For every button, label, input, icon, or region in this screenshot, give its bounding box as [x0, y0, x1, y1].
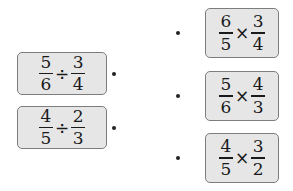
- divide-operator: ÷: [55, 64, 69, 84]
- numerator: 3: [253, 13, 264, 30]
- right-expression-2: 5 6 × 4 3: [205, 71, 279, 121]
- numerator: 3: [253, 138, 264, 155]
- multiply-operator: ×: [235, 23, 249, 43]
- numerator: 2: [73, 108, 84, 125]
- right-expression-3: 4 5 × 3 2: [205, 133, 279, 183]
- left-expression-2: 4 5 ÷ 2 3: [17, 106, 107, 149]
- numerator: 5: [220, 76, 231, 93]
- numerator: 6: [220, 13, 231, 30]
- right-expression-1: 6 5 × 3 4: [205, 8, 279, 58]
- denominator: 3: [73, 130, 84, 147]
- numerator: 4: [220, 138, 231, 155]
- match-dot-left-1[interactable]: [112, 72, 116, 76]
- fraction: 3 4: [71, 54, 85, 93]
- fraction: 4 5: [39, 108, 53, 147]
- denominator: 4: [73, 76, 84, 93]
- match-dot-right-1[interactable]: [176, 31, 180, 35]
- numerator: 4: [253, 76, 264, 93]
- numerator: 4: [40, 108, 51, 125]
- fraction: 3 2: [251, 138, 265, 177]
- match-dot-right-3[interactable]: [176, 156, 180, 160]
- denominator: 3: [253, 99, 264, 116]
- denominator: 5: [220, 36, 231, 53]
- denominator: 5: [220, 161, 231, 178]
- multiply-operator: ×: [235, 148, 249, 168]
- multiply-operator: ×: [235, 86, 249, 106]
- match-dot-left-2[interactable]: [112, 126, 116, 130]
- fraction: 5 6: [39, 54, 53, 93]
- fraction: 6 5: [219, 13, 233, 52]
- denominator: 4: [253, 36, 264, 53]
- denominator: 5: [40, 130, 51, 147]
- fraction: 3 4: [251, 13, 265, 52]
- fraction: 4 5: [219, 138, 233, 177]
- denominator: 6: [40, 76, 51, 93]
- denominator: 6: [220, 99, 231, 116]
- numerator: 3: [73, 54, 84, 71]
- fraction: 4 3: [251, 76, 265, 115]
- numerator: 5: [40, 54, 51, 71]
- fraction: 5 6: [219, 76, 233, 115]
- left-expression-1: 5 6 ÷ 3 4: [17, 52, 107, 95]
- divide-operator: ÷: [55, 118, 69, 138]
- denominator: 2: [253, 161, 264, 178]
- match-dot-right-2[interactable]: [176, 94, 180, 98]
- fraction: 2 3: [71, 108, 85, 147]
